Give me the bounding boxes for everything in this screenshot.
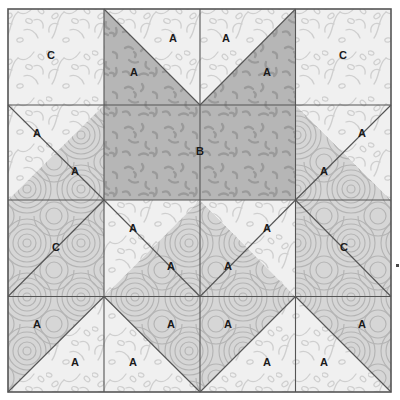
patch-label: A: [169, 32, 177, 44]
patch-label: A: [358, 318, 366, 330]
patch-label: A: [33, 318, 41, 330]
patch-label: A: [130, 66, 138, 78]
patch-label: C: [339, 49, 347, 61]
patch-label: A: [167, 260, 175, 272]
patch-label: A: [71, 165, 79, 177]
quilt-canvas: CAAAACAABAACAAAACAAAAAAAA: [0, 0, 400, 400]
patch-label: A: [224, 318, 232, 330]
patch-label: C: [47, 49, 55, 61]
patch-label: A: [320, 165, 328, 177]
patch-label: A: [263, 222, 271, 234]
patch-label: A: [224, 260, 232, 272]
patch-label: A: [167, 318, 175, 330]
patch-label: A: [71, 356, 79, 368]
quilt-patch[interactable]: [8, 9, 104, 105]
patch-label: A: [222, 32, 230, 44]
right-edge-tick-mark: [396, 264, 399, 267]
patch-label: A: [320, 356, 328, 368]
patch-label: A: [263, 66, 271, 78]
patch-label: A: [263, 356, 271, 368]
patch-label: C: [340, 241, 348, 253]
patch-label: A: [358, 127, 366, 139]
patch-label: A: [129, 356, 137, 368]
patch-label: C: [52, 241, 60, 253]
patch-label: B: [196, 145, 204, 157]
patch-label: A: [129, 222, 137, 234]
patch-label: A: [33, 127, 41, 139]
right-edge-tick: [396, 264, 399, 267]
quilt-block-diagram: CAAAACAABAACAAAACAAAAAAAA: [0, 0, 400, 400]
